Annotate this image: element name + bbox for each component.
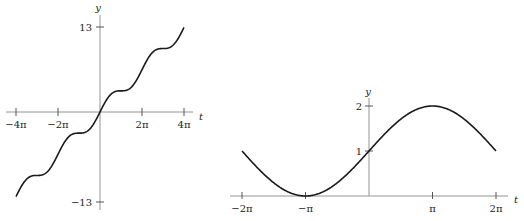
left-y-axis-label: y [94, 2, 101, 13]
left-xtick-label: −2π [47, 119, 69, 130]
right-xtick-label: π [429, 203, 436, 214]
right-xtick-label: −π [298, 203, 313, 214]
right-y-axis-label: y [364, 86, 371, 97]
figure: −4π −2π 2π 4π 13 −13 y t −2π −π π 2π 2 1… [0, 0, 524, 221]
left-xtick-label: −4π [5, 119, 27, 130]
left-ytick-label: 13 [79, 22, 92, 33]
right-xtick-label: 2π [490, 203, 503, 214]
right-chart: −2π −π π 2π 2 1 y t [230, 86, 519, 214]
left-xtick-label: 2π [136, 119, 149, 130]
left-ytick-label: −13 [71, 197, 92, 208]
left-chart: −4π −2π 2π 4π 13 −13 y t [5, 2, 204, 210]
right-ytick-label: 2 [356, 101, 362, 112]
left-xtick-label: 4π [178, 119, 191, 130]
right-x-axis-label: t [514, 194, 519, 205]
right-xtick-label: −2π [231, 203, 253, 214]
left-x-axis-label: t [199, 111, 204, 122]
right-ytick-label: 1 [356, 146, 362, 157]
